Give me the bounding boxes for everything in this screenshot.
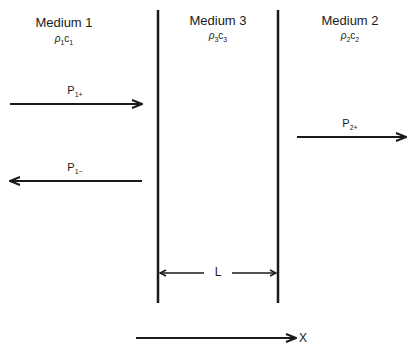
- p1-plus-label: P1+: [67, 84, 82, 98]
- diagram-canvas: [0, 0, 420, 351]
- subscript: 1−: [75, 168, 83, 175]
- subscript: 2: [355, 36, 359, 43]
- subscript: 1: [69, 39, 73, 46]
- p2-plus-label: P2+: [342, 117, 357, 131]
- medium-2-params: ρ2c2: [341, 30, 360, 43]
- x-axis-label: X: [299, 331, 307, 345]
- subscript: 2+: [350, 124, 358, 131]
- medium-1-params: ρ1c1: [55, 33, 74, 46]
- p1-minus-label: P1−: [67, 161, 82, 175]
- medium-3-params: ρ3c3: [209, 30, 228, 43]
- medium-2-title: Medium 2: [321, 13, 378, 28]
- subscript: 1+: [75, 91, 83, 98]
- thickness-label: L: [211, 265, 226, 279]
- medium-1-title: Medium 1: [35, 15, 92, 30]
- medium-3-title: Medium 3: [189, 13, 246, 28]
- subscript: 3: [223, 36, 227, 43]
